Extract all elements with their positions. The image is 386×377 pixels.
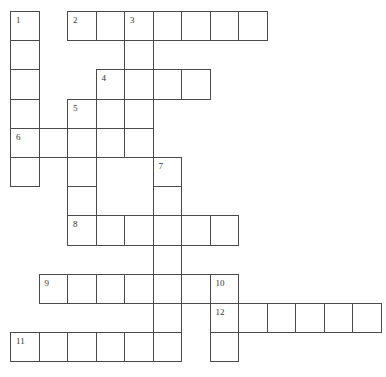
clue-number: 2	[73, 16, 78, 25]
crossword-cell[interactable]	[124, 332, 154, 362]
crossword-cell[interactable]	[210, 215, 240, 245]
crossword-cell[interactable]	[238, 303, 268, 333]
crossword-cell-1[interactable]: 1	[10, 11, 40, 41]
crossword-cell[interactable]	[67, 128, 97, 158]
crossword-cell-12[interactable]: 12	[210, 303, 240, 333]
crossword-cell[interactable]	[181, 11, 211, 41]
crossword-cell[interactable]	[181, 274, 211, 304]
crossword-cell-11[interactable]: 11	[10, 332, 40, 362]
crossword-cell-6[interactable]: 6	[10, 128, 40, 158]
crossword-cell[interactable]	[96, 11, 126, 41]
crossword-cell-9[interactable]: 9	[39, 274, 69, 304]
crossword-cell[interactable]	[67, 186, 97, 216]
crossword-cell[interactable]	[67, 274, 97, 304]
crossword-cell[interactable]	[96, 332, 126, 362]
crossword-cell[interactable]	[96, 215, 126, 245]
crossword-cell[interactable]	[67, 157, 97, 187]
crossword-cell[interactable]	[10, 99, 40, 129]
crossword-cell[interactable]	[10, 40, 40, 70]
crossword-cell-2[interactable]: 2	[67, 11, 97, 41]
clue-number: 8	[73, 220, 78, 229]
crossword-cell[interactable]	[153, 303, 183, 333]
crossword-cell[interactable]	[210, 332, 240, 362]
crossword-cell-4[interactable]: 4	[96, 69, 126, 99]
crossword-cell[interactable]	[295, 303, 325, 333]
crossword-cell[interactable]	[238, 11, 268, 41]
crossword-cell[interactable]	[124, 99, 154, 129]
clue-number: 6	[16, 133, 21, 142]
crossword-cell[interactable]	[67, 332, 97, 362]
crossword-cell[interactable]	[153, 69, 183, 99]
clue-number: 11	[16, 337, 25, 346]
crossword-cell[interactable]	[124, 69, 154, 99]
crossword-cell-5[interactable]: 5	[67, 99, 97, 129]
crossword-cell[interactable]	[124, 274, 154, 304]
crossword-cell[interactable]	[39, 128, 69, 158]
clue-number: 12	[216, 308, 225, 317]
crossword-cell-3[interactable]: 3	[124, 11, 154, 41]
crossword-cell[interactable]	[10, 69, 40, 99]
crossword-cell[interactable]	[153, 215, 183, 245]
clue-number: 1	[16, 16, 21, 25]
crossword-cell[interactable]	[96, 99, 126, 129]
crossword-cell[interactable]	[39, 332, 69, 362]
crossword-cell[interactable]	[153, 186, 183, 216]
crossword-cell[interactable]	[10, 157, 40, 187]
crossword-cell[interactable]	[96, 274, 126, 304]
crossword-cell[interactable]	[153, 332, 183, 362]
crossword-cell[interactable]	[153, 274, 183, 304]
crossword-cell-8[interactable]: 8	[67, 215, 97, 245]
clue-number: 9	[45, 279, 50, 288]
crossword-cell[interactable]	[153, 245, 183, 275]
crossword-cell-7[interactable]: 7	[153, 157, 183, 187]
clue-number: 10	[216, 279, 225, 288]
clue-number: 7	[159, 162, 164, 171]
clue-number: 5	[73, 104, 78, 113]
crossword-cell[interactable]	[96, 128, 126, 158]
clue-number: 4	[102, 74, 107, 83]
crossword-cell[interactable]	[210, 11, 240, 41]
crossword-grid: 123456789101211	[0, 0, 386, 377]
crossword-cell[interactable]	[324, 303, 354, 333]
crossword-cell[interactable]	[124, 215, 154, 245]
crossword-cell[interactable]	[153, 11, 183, 41]
clue-number: 3	[130, 16, 135, 25]
crossword-cell[interactable]	[181, 69, 211, 99]
crossword-cell[interactable]	[124, 40, 154, 70]
crossword-cell[interactable]	[267, 303, 297, 333]
crossword-cell[interactable]	[124, 128, 154, 158]
crossword-cell-10[interactable]: 10	[210, 274, 240, 304]
crossword-cell[interactable]	[181, 215, 211, 245]
crossword-cell[interactable]	[352, 303, 382, 333]
